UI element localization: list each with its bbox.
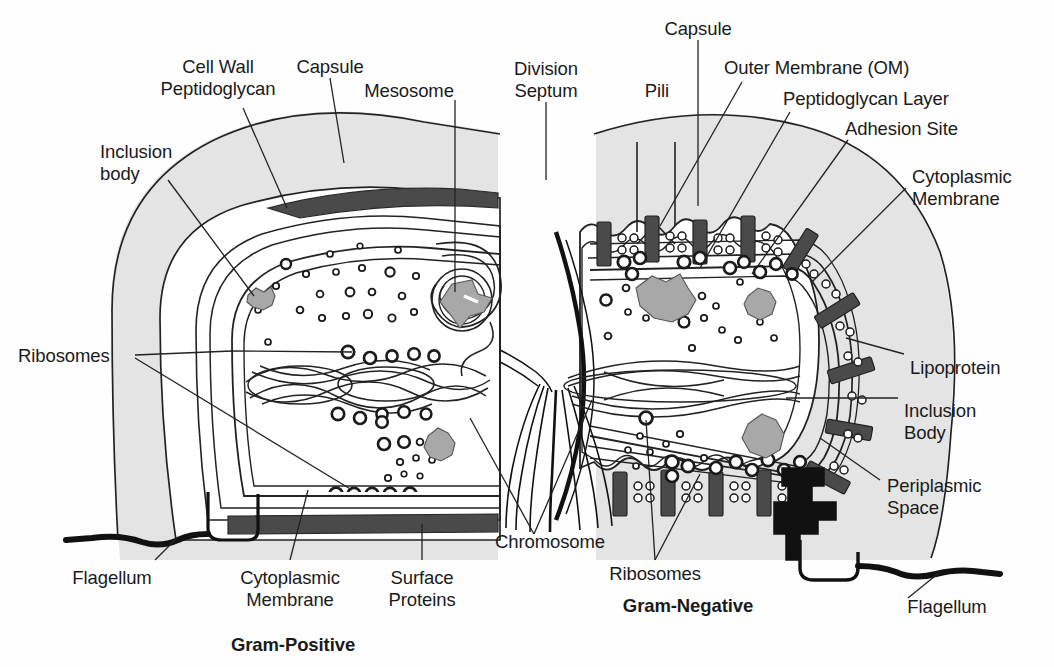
label-cytoplasmic-membrane-right: Cytoplasmic Membrane <box>912 166 1012 210</box>
label-capsule-right: Capsule <box>664 18 731 40</box>
label-gram-positive: Gram-Positive <box>231 634 355 656</box>
label-ribosomes-left: Ribosomes <box>18 345 110 367</box>
label-ribosomes-right: Ribosomes <box>609 563 701 585</box>
label-gram-negative: Gram-Negative <box>623 595 753 617</box>
label-outer-membrane: Outer Membrane (OM) <box>724 57 909 79</box>
label-cytoplasmic-membrane-left: Cytoplasmic Membrane <box>240 567 340 611</box>
label-cell-wall-peptidoglycan: Cell Wall Peptidoglycan <box>161 56 276 100</box>
label-lipoprotein: Lipoprotein <box>910 357 1000 379</box>
label-pili: Pili <box>645 80 669 102</box>
label-division-septum: Division Septum <box>514 58 578 102</box>
label-surface-proteins: Surface Proteins <box>388 567 455 611</box>
diagram-canvas: Cell Wall Peptidoglycan Capsule Mesosome… <box>0 0 1054 667</box>
label-adhesion-site: Adhesion Site <box>845 118 958 140</box>
label-capsule-left: Capsule <box>296 56 363 78</box>
label-peptidoglycan-layer: Peptidoglycan Layer <box>783 88 949 110</box>
label-periplasmic-space: Periplasmic Space <box>887 475 982 519</box>
label-mesosome: Mesosome <box>364 80 454 102</box>
label-flagellum-left: Flagellum <box>72 567 151 589</box>
label-inclusion-body-right: Inclusion Body <box>904 400 976 444</box>
surface-proteins-bottom-band <box>228 514 498 534</box>
label-flagellum-right: Flagellum <box>907 596 986 618</box>
label-chromosome: Chromosome <box>495 531 605 553</box>
label-inclusion-body-left: Inclusion body <box>100 141 172 185</box>
